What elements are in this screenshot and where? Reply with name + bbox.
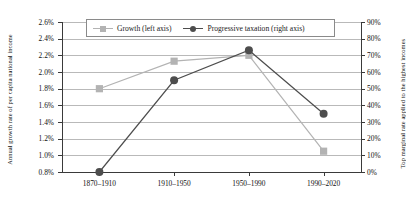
plot-area bbox=[62, 22, 362, 173]
legend-circle-icon bbox=[183, 24, 203, 32]
data-point-marker bbox=[320, 148, 327, 155]
data-point-marker bbox=[170, 76, 178, 84]
data-point-marker bbox=[320, 110, 328, 118]
y-axis-left-tick-label: 1.6% bbox=[20, 101, 54, 110]
y-axis-left-tick-label: 2.0% bbox=[20, 68, 54, 77]
y-axis-left-tick-label: 1.2% bbox=[20, 134, 54, 143]
data-point-marker bbox=[245, 46, 253, 54]
legend-label: Growth (left axis) bbox=[117, 24, 171, 33]
y-axis-left-title: Annual growth rate of per capita nationa… bbox=[6, 20, 13, 180]
y-axis-right-tick-label: 20% bbox=[367, 134, 401, 143]
y-axis-right-tick-label: 30% bbox=[367, 118, 401, 127]
series-layer bbox=[62, 22, 362, 173]
y-axis-right-tick-label: 0% bbox=[367, 168, 401, 177]
y-axis-right-tick-label: 50% bbox=[367, 84, 401, 93]
x-axis-tick-label: 1990–2020 bbox=[284, 179, 364, 188]
legend-item: Growth (left axis) bbox=[93, 24, 171, 33]
y-axis-right-tick-label: 90% bbox=[367, 18, 401, 27]
data-point-marker bbox=[171, 58, 178, 65]
y-axis-left-tick-label: 1.4% bbox=[20, 118, 54, 127]
legend-square-icon bbox=[93, 24, 113, 32]
chart-legend: Growth (left axis)Progressive taxation (… bbox=[86, 19, 335, 37]
y-axis-right-tick-label: 80% bbox=[367, 34, 401, 43]
x-axis-tick-label: 1870–1910 bbox=[59, 179, 139, 188]
y-axis-right-tick-label: 10% bbox=[367, 151, 401, 160]
series-line bbox=[99, 55, 323, 151]
y-axis-right-tick-label: 40% bbox=[367, 101, 401, 110]
data-point-marker bbox=[96, 85, 103, 92]
x-axis-tick-label: 1910–1950 bbox=[134, 179, 214, 188]
legend-label: Progressive taxation (right axis) bbox=[207, 24, 304, 33]
y-axis-right-tick-label: 60% bbox=[367, 68, 401, 77]
series-line bbox=[99, 50, 323, 172]
x-axis-tick-label: 1950–1990 bbox=[209, 179, 289, 188]
y-axis-right-tick-label: 70% bbox=[367, 51, 401, 60]
y-axis-left-tick-label: 2.4% bbox=[20, 34, 54, 43]
y-axis-left-tick-label: 1.0% bbox=[20, 151, 54, 160]
y-axis-left-tick-label: 2.6% bbox=[20, 18, 54, 27]
y-axis-left-tick-label: 0.8% bbox=[20, 168, 54, 177]
y-axis-left-tick-label: 2.2% bbox=[20, 51, 54, 60]
legend-item: Progressive taxation (right axis) bbox=[183, 24, 304, 33]
y-axis-left-tick-label: 1.8% bbox=[20, 84, 54, 93]
data-point-marker bbox=[95, 168, 103, 176]
